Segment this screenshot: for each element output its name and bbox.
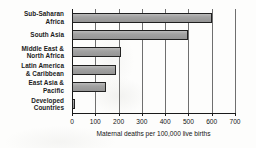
category-label: Latin America & Caribbean bbox=[0, 61, 68, 78]
x-axis-title: Maternal deaths per 100,000 live births bbox=[72, 130, 235, 137]
x-tick-label: 400 bbox=[160, 118, 171, 125]
bar-row bbox=[72, 78, 106, 95]
x-tick-mark bbox=[119, 113, 120, 116]
x-tick-label: 100 bbox=[90, 118, 101, 125]
category-label: Sub-Saharan Africa bbox=[0, 9, 68, 26]
plot-area bbox=[72, 9, 235, 113]
bar-row bbox=[72, 9, 212, 26]
category-label: Developed Countries bbox=[0, 96, 68, 113]
x-tick-mark bbox=[95, 113, 96, 116]
bar-row bbox=[72, 96, 75, 113]
bar bbox=[72, 65, 116, 75]
bar-series bbox=[72, 9, 235, 113]
bar bbox=[72, 13, 212, 23]
x-tick-mark bbox=[165, 113, 166, 116]
x-axis-line bbox=[72, 113, 235, 114]
category-label: Middle East & North Africa bbox=[0, 44, 68, 61]
x-tick-mark bbox=[72, 113, 73, 116]
x-tick-label: 0 bbox=[70, 118, 74, 125]
bar bbox=[72, 82, 106, 92]
x-tick-label: 500 bbox=[183, 118, 194, 125]
x-tick-label: 600 bbox=[206, 118, 217, 125]
category-axis-labels: Sub-Saharan AfricaSouth AsiaMiddle East … bbox=[0, 9, 68, 113]
category-label: East Asia & Pacific bbox=[0, 78, 68, 95]
x-tick-label: 300 bbox=[136, 118, 147, 125]
x-tick-mark bbox=[212, 113, 213, 116]
gridline bbox=[235, 9, 236, 113]
category-label: South Asia bbox=[0, 26, 68, 43]
x-tick-label: 700 bbox=[229, 118, 240, 125]
bar bbox=[72, 99, 75, 109]
x-tick-mark bbox=[235, 113, 236, 116]
bar bbox=[72, 30, 188, 40]
bar-row bbox=[72, 44, 121, 61]
bar bbox=[72, 47, 121, 57]
x-tick-label: 200 bbox=[113, 118, 124, 125]
maternal-mortality-bar-chart: Sub-Saharan AfricaSouth AsiaMiddle East … bbox=[0, 0, 256, 148]
x-tick-mark bbox=[142, 113, 143, 116]
x-tick-mark bbox=[188, 113, 189, 116]
bar-row bbox=[72, 61, 116, 78]
bar-row bbox=[72, 26, 188, 43]
